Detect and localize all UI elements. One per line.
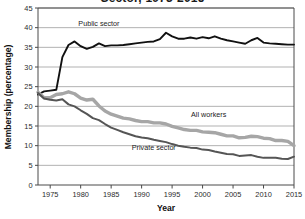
- x-axis-tick-label: 2000: [194, 190, 210, 199]
- chart-plot-area: 051015202530354045 197519801985199019952…: [0, 0, 305, 219]
- series-line-public-sector: [38, 33, 294, 95]
- y-axis-tick-label: 0: [28, 181, 32, 190]
- x-axis-tick-label: 1975: [42, 190, 58, 199]
- union-membership-chart: Sector, 1973-2015 051015202530354045 197…: [0, 0, 305, 219]
- y-axis-tick-label: 5: [28, 161, 32, 170]
- x-axis-tick-label: 2005: [225, 190, 241, 199]
- x-axis-tick-label: 1990: [133, 190, 149, 199]
- x-axis-ticks-group: 197519801985199019952000200520102015: [42, 185, 302, 199]
- x-axis-tick-label: 1995: [164, 190, 180, 199]
- series-label-all-workers: All workers: [191, 110, 227, 119]
- series-label-private-sector: Private sector: [132, 143, 177, 152]
- y-axis-ticks-group: 051015202530354045: [24, 4, 38, 190]
- y-axis-title: Membership (percentage): [3, 45, 13, 150]
- x-axis-tick-label: 2015: [286, 190, 302, 199]
- y-axis-tick-label: 30: [24, 63, 32, 72]
- x-axis-tick-label: 1980: [72, 190, 88, 199]
- y-axis-tick-label: 25: [24, 82, 32, 91]
- x-axis-title: Year: [157, 203, 176, 213]
- y-axis-tick-label: 40: [24, 23, 32, 32]
- y-axis-tick-label: 15: [24, 122, 32, 131]
- y-axis-tick-label: 10: [24, 141, 32, 150]
- series-line-all-workers: [38, 92, 294, 146]
- y-axis-tick-label: 45: [24, 4, 32, 13]
- data-series-group: [38, 33, 294, 159]
- series-label-public-sector: Public sector: [78, 19, 120, 28]
- y-axis-tick-label: 20: [24, 102, 32, 111]
- y-axis-tick-label: 35: [24, 43, 32, 52]
- x-axis-tick-label: 2010: [255, 190, 271, 199]
- x-axis-tick-label: 1985: [103, 190, 119, 199]
